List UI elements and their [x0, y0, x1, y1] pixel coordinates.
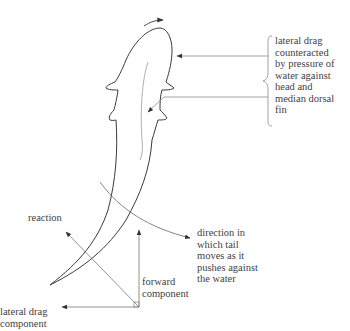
- lateral-drag-note-label: lateral drag counteracted by pressure of…: [275, 35, 334, 116]
- forward-component-label: forward component: [142, 276, 189, 299]
- leader-line-dorsal-fin: [148, 97, 268, 112]
- reaction-label: reaction: [28, 212, 62, 224]
- tail-direction-arrow: [100, 182, 190, 238]
- tail-direction-label: direction in which tail moves as it push…: [197, 227, 258, 285]
- fish-body-outline: [50, 28, 174, 285]
- lateral-drag-component-label: lateral drag component: [0, 306, 48, 329]
- head-rotation-arrow: [144, 20, 163, 26]
- curly-bracket: [263, 36, 272, 126]
- fish-spine-line: [140, 62, 148, 160]
